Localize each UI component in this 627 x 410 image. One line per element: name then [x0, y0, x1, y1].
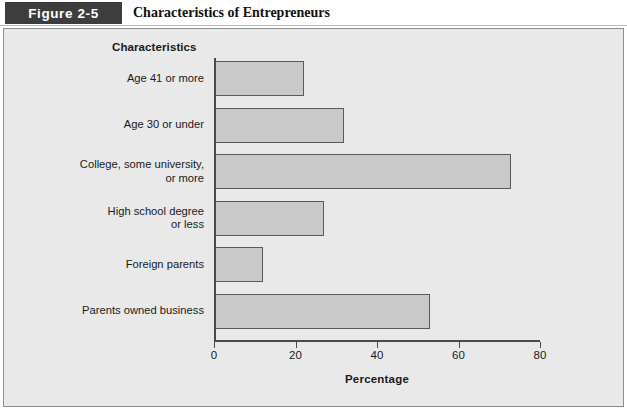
category-label-line: or more [4, 172, 204, 186]
category-label-line: Age 41 or more [4, 72, 204, 86]
category-label: Age 30 or under [4, 118, 209, 132]
value-axis-tick-label: 20 [276, 349, 316, 361]
value-axis-tick [377, 342, 378, 348]
bar [214, 61, 304, 96]
bar [214, 201, 324, 236]
figure-title: Characteristics of Entrepreneurs [133, 3, 330, 23]
header-divider [0, 25, 627, 26]
category-label-line: Parents owned business [4, 304, 204, 318]
category-label-line: High school degree [4, 205, 204, 219]
category-label-line: Age 30 or under [4, 118, 204, 132]
category-label-line: Foreign parents [4, 258, 204, 272]
figure-container: Figure 2-5 Characteristics of Entreprene… [0, 0, 627, 410]
category-label: High school degreeor less [4, 205, 209, 232]
value-axis-tick-label: 0 [194, 349, 234, 361]
value-axis-tick-label: 80 [520, 349, 560, 361]
category-label: Age 41 or more [4, 72, 209, 86]
value-axis-tick [296, 342, 297, 348]
plot-area: Age 41 or moreAge 30 or underCollege, so… [4, 29, 624, 407]
category-label-line: or less [4, 218, 204, 232]
value-axis-tick [540, 342, 541, 348]
category-axis-line [214, 58, 216, 342]
bar [214, 247, 263, 282]
bar [214, 294, 430, 329]
bar [214, 154, 511, 189]
value-axis-tick-label: 40 [357, 349, 397, 361]
category-label: Foreign parents [4, 258, 209, 272]
category-label-line: College, some university, [4, 158, 204, 172]
figure-number-badge: Figure 2-5 [5, 2, 122, 24]
chart-panel: Characteristics Age 41 or moreAge 30 or … [3, 28, 624, 407]
value-axis-tick [214, 342, 215, 348]
value-axis-title: Percentage [214, 373, 540, 385]
category-label: College, some university,or more [4, 158, 209, 185]
bar [214, 108, 344, 143]
category-label: Parents owned business [4, 304, 209, 318]
value-axis-tick [459, 342, 460, 348]
figure-header: Figure 2-5 Characteristics of Entreprene… [0, 0, 627, 27]
value-axis-tick-label: 60 [439, 349, 479, 361]
